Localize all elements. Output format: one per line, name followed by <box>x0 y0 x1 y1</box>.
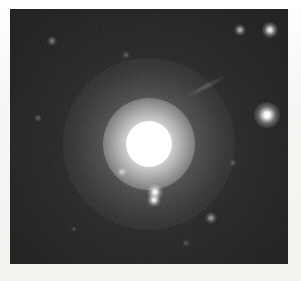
astronomical-image-page <box>0 0 301 281</box>
star-lower-right-faint <box>205 212 216 223</box>
star-mid-left-faint <box>34 114 42 122</box>
star-top-left-faint <box>47 36 56 45</box>
star-upper-mid-faint <box>122 51 130 59</box>
star-top-right-bright <box>262 22 278 38</box>
star-right-mid-faint <box>229 159 236 166</box>
galaxy-core <box>126 121 172 167</box>
astronomical-plate <box>10 9 288 264</box>
star-bright-right <box>254 102 280 128</box>
star-bottom-mid-faint <box>182 239 189 246</box>
